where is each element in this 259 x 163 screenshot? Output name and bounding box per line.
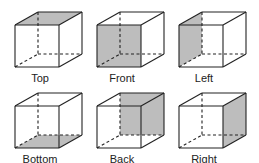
edge xyxy=(59,93,82,106)
cube-back: Back xyxy=(92,87,178,163)
shaded-face-back xyxy=(120,93,164,135)
edge xyxy=(223,54,246,67)
edge xyxy=(141,54,164,67)
edge xyxy=(141,12,164,25)
shaded-face-top xyxy=(15,12,82,25)
edge xyxy=(97,93,120,106)
shaded-face-right xyxy=(223,93,246,148)
edge xyxy=(141,135,164,148)
edge xyxy=(15,93,38,106)
shaded-face-left xyxy=(179,12,202,67)
cube-right-icon xyxy=(174,87,259,157)
cube-right: Right xyxy=(174,87,259,163)
cube-label-left: Left xyxy=(174,72,234,84)
shaded-face-bottom xyxy=(15,135,82,148)
cube-label-front: Front xyxy=(92,72,152,84)
shaded-face-front xyxy=(97,25,141,67)
hidden-edge xyxy=(97,135,120,148)
cube-bottom-icon xyxy=(10,87,96,157)
cube-bottom: Bottom xyxy=(10,87,96,163)
edge xyxy=(223,12,246,25)
cube-left-icon xyxy=(174,6,259,76)
cube-back-icon xyxy=(92,87,178,157)
cube-label-back: Back xyxy=(92,153,152,163)
edge xyxy=(59,54,82,67)
cube-left: Left xyxy=(174,6,259,88)
hidden-edge xyxy=(15,54,38,67)
edge xyxy=(97,12,120,25)
cube-label-bottom: Bottom xyxy=(10,153,70,163)
cube-label-right: Right xyxy=(174,153,234,163)
edge xyxy=(179,93,202,106)
cube-label-top: Top xyxy=(10,72,70,84)
cube-front: Front xyxy=(92,6,178,88)
cube-front-icon xyxy=(92,6,178,76)
cube-top-icon xyxy=(10,6,96,76)
hidden-edge xyxy=(179,135,202,148)
cube-top: Top xyxy=(10,6,96,88)
